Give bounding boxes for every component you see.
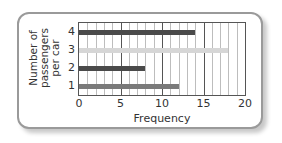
grid-line: [195, 23, 196, 95]
x-tick-15: 15: [197, 98, 211, 109]
bar-4: [79, 30, 195, 35]
y-tick-1: 1: [63, 80, 75, 91]
x-tick-5: 5: [117, 98, 124, 109]
grid-line: [237, 23, 238, 95]
x-tick-20: 20: [238, 98, 252, 109]
x-tick-10: 10: [155, 98, 169, 109]
bar-1: [79, 84, 179, 89]
y-axis-label-line-3: per car: [50, 28, 61, 88]
bar-2: [79, 66, 145, 71]
grid-line: [204, 23, 205, 95]
bar-3: [79, 48, 228, 53]
y-tick-3: 3: [63, 44, 75, 55]
x-tick-0: 0: [76, 98, 83, 109]
plot-area: [78, 22, 246, 96]
grid-line: [212, 23, 213, 95]
grid-line: [228, 23, 229, 95]
y-axis-label: Number of passengers per car: [28, 28, 61, 88]
grid-line: [220, 23, 221, 95]
y-tick-2: 2: [63, 62, 75, 73]
y-tick-4: 4: [63, 26, 75, 37]
x-axis-label: Frequency: [134, 112, 191, 125]
